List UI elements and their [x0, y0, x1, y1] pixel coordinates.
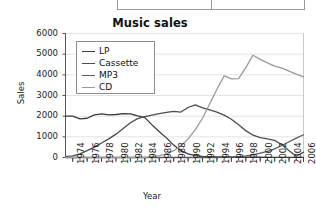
- y-tick-label: 5000: [12, 48, 58, 58]
- legend-item-lp[interactable]: LP: [82, 45, 154, 57]
- x-tick-label: 1988: [177, 142, 187, 164]
- chart-legend: LPCassetteMP3CD: [76, 41, 155, 94]
- legend-item-mp3[interactable]: MP3: [82, 69, 154, 81]
- legend-item-cd[interactable]: CD: [82, 81, 154, 93]
- y-tick-label: 1000: [12, 131, 58, 141]
- x-tick-label: 1994: [221, 142, 231, 164]
- x-tick-label: 1986: [163, 142, 173, 164]
- y-tick-label: 6000: [12, 28, 58, 38]
- legend-swatch-line-icon: [82, 87, 95, 88]
- legend-swatch-line-icon: [82, 63, 95, 64]
- chart-figure: 0100020003000400050006000 19741976197819…: [0, 0, 316, 209]
- x-axis-label-text: Year: [143, 191, 161, 201]
- legend-label: CD: [99, 83, 112, 92]
- screenshot-root: Music sales 0100020003000400050006000 19…: [0, 0, 316, 209]
- x-tick-label: 1998: [249, 142, 259, 164]
- legend-item-cassette[interactable]: Cassette: [82, 57, 154, 69]
- y-axis-label: Sales: [16, 63, 26, 123]
- x-tick-label: 1978: [105, 142, 115, 164]
- x-tick-label: 2000: [264, 142, 274, 164]
- legend-label: Cassette: [99, 59, 138, 68]
- legend-swatch-line-icon: [82, 75, 95, 76]
- x-tick-label: 1974: [76, 142, 86, 164]
- legend-swatch-line-icon: [82, 51, 95, 52]
- x-tick-label: 1990: [192, 142, 202, 164]
- x-tick-label: 1980: [120, 142, 130, 164]
- x-tick-label: 1984: [148, 142, 158, 164]
- x-tick-label: 1996: [235, 142, 245, 164]
- x-tick-label: 1992: [206, 142, 216, 164]
- x-axis-label: Year: [0, 191, 316, 201]
- x-tick-label: 2004: [293, 142, 303, 164]
- x-tick-label: 1976: [91, 142, 101, 164]
- legend-label: LP: [99, 47, 109, 56]
- y-tick-label: 0: [12, 152, 58, 162]
- x-tick-label: 1982: [134, 142, 144, 164]
- x-tick-label: 2006: [307, 142, 316, 164]
- legend-label: MP3: [99, 71, 118, 80]
- x-tick-label: 2002: [278, 142, 288, 164]
